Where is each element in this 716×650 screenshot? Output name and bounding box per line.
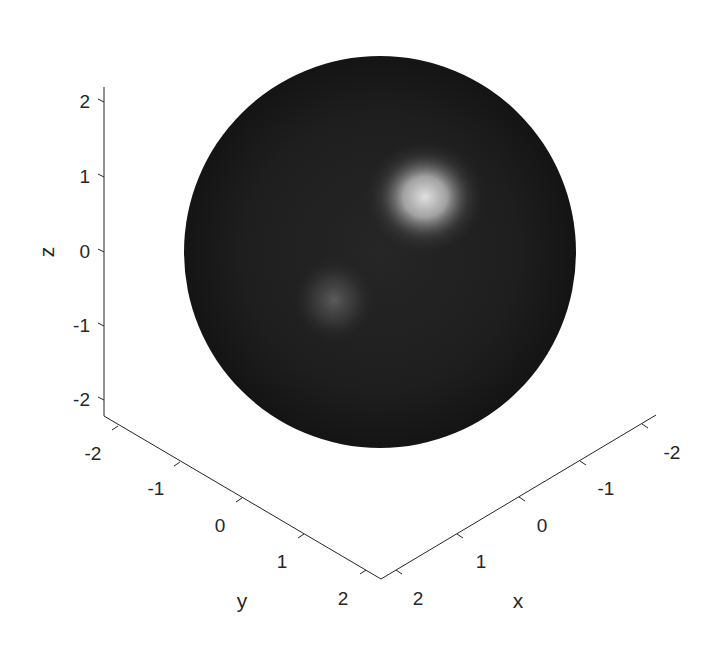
y-axis-label: y [237,589,248,612]
z-tick-labels: 2 1 0 -1 -2 [73,91,90,410]
svg-text:2: 2 [79,91,90,112]
svg-text:-1: -1 [598,478,615,499]
svg-text:2: 2 [338,588,349,609]
svg-text:-2: -2 [85,443,102,464]
z-axis-label: z [35,247,58,258]
svg-text:-2: -2 [664,442,681,463]
svg-text:-2: -2 [73,389,90,410]
y-tick-labels: -2 -1 0 1 2 [85,443,349,609]
z-ticks [98,99,104,400]
svg-text:-1: -1 [73,315,90,336]
sphere-3d-plot: 2 1 0 -1 -2 z -2 -1 0 1 2 y 2 1 0 -1 -2 … [0,0,716,650]
svg-text:0: 0 [537,515,548,536]
sphere-surface [184,56,576,448]
svg-text:2: 2 [413,588,424,609]
sphere-highlight-secondary [292,256,376,344]
svg-text:1: 1 [79,166,90,187]
svg-text:1: 1 [277,551,288,572]
svg-text:0: 0 [215,515,226,536]
svg-text:0: 0 [79,241,90,262]
sphere-highlight-primary [363,139,487,255]
sphere-body [184,56,576,448]
svg-text:-1: -1 [148,478,165,499]
y-ticks [112,426,366,574]
svg-text:1: 1 [476,551,487,572]
x-tick-labels: 2 1 0 -1 -2 [413,442,681,609]
x-ticks [396,424,648,574]
x-axis-label: x [513,589,524,612]
